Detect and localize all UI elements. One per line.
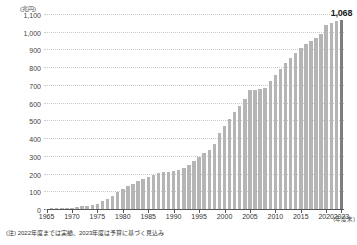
bar (314, 38, 317, 209)
bar (274, 75, 277, 209)
bar (294, 53, 297, 209)
bar (223, 126, 226, 209)
bar (258, 89, 261, 209)
bar-series (44, 14, 344, 209)
y-tick-label: 900 (29, 47, 41, 54)
chart-page: (兆円) 01002003004005006007008009001,0001,… (0, 0, 357, 245)
x-tick-label: 2015 (293, 213, 309, 221)
bar (335, 21, 338, 209)
bar (284, 63, 287, 209)
bar (141, 179, 144, 209)
bar (228, 119, 231, 209)
x-tick-label: 1995 (191, 213, 207, 221)
x-tick-label: 2000 (217, 213, 233, 221)
x-tick-label: 1965 (39, 213, 55, 221)
bar (243, 99, 246, 209)
bar (218, 133, 221, 209)
bar (233, 112, 236, 209)
bar (106, 199, 109, 209)
chart-footnote: (注) 2022年度までは実績、2023年度は予算に基づく見込み (6, 230, 164, 237)
y-tick-label: 400 (29, 136, 41, 143)
bar (126, 186, 129, 209)
bar (289, 58, 292, 209)
bar (330, 23, 333, 209)
bar (208, 150, 211, 209)
bar (197, 157, 200, 209)
bar (121, 189, 124, 209)
bar (147, 177, 150, 209)
x-tick-label: 2010 (268, 213, 284, 221)
y-tick-label: 500 (29, 118, 41, 125)
y-tick-label: 200 (29, 171, 41, 178)
bar (136, 181, 139, 209)
bar (304, 44, 307, 209)
bar (131, 184, 134, 209)
bar (248, 90, 251, 209)
value-annotation-2023: 1,068 (331, 8, 353, 18)
bar (101, 201, 104, 209)
bar (187, 165, 190, 209)
y-tick-label: 100 (29, 189, 41, 196)
bar (324, 25, 327, 209)
bar (319, 34, 322, 209)
bar (202, 153, 205, 209)
bar (157, 173, 160, 209)
bar (213, 144, 216, 209)
bar (279, 69, 282, 209)
y-tick-label: 300 (29, 153, 41, 160)
y-tick-label: 1,100 (23, 12, 41, 19)
bar (192, 161, 195, 209)
y-tick-label: 1,000 (23, 29, 41, 36)
x-tick-label: 1990 (166, 213, 182, 221)
y-tick-label: 600 (29, 100, 41, 107)
bar (263, 88, 266, 209)
bar (167, 172, 170, 209)
bar (238, 106, 241, 209)
bar (162, 172, 165, 209)
bar (116, 192, 119, 209)
y-tick-label: 800 (29, 65, 41, 72)
bar (299, 48, 302, 209)
x-tick-label: 1980 (115, 213, 131, 221)
x-tick-label: 1985 (140, 213, 156, 221)
bar (172, 171, 175, 209)
bar (269, 81, 272, 209)
x-axis-caption: (年度末) (333, 215, 355, 223)
bar (340, 20, 343, 209)
bar (177, 170, 180, 209)
bar (309, 41, 312, 209)
x-tick-label: 1970 (64, 213, 80, 221)
x-tick-label: 2020 (318, 213, 334, 221)
x-axis: 1965197019751980198519901995200020052010… (44, 209, 344, 231)
y-tick-label: 700 (29, 82, 41, 89)
bar (253, 90, 256, 209)
bar (111, 196, 114, 209)
bar (182, 168, 185, 209)
x-tick-label: 1975 (90, 213, 106, 221)
bar (152, 175, 155, 209)
x-tick-label: 2005 (242, 213, 258, 221)
plot-area: 01002003004005006007008009001,0001,100 1… (44, 14, 344, 209)
